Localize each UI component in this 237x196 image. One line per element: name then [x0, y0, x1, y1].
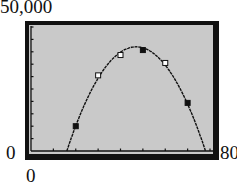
open-data-point [96, 73, 101, 78]
filled-data-point [140, 48, 145, 53]
filled-data-point [73, 124, 78, 129]
calculator-graph-screen [0, 0, 237, 196]
open-data-point [163, 60, 168, 65]
open-data-point [118, 53, 123, 58]
screen-background [29, 25, 213, 154]
filled-data-point [185, 100, 190, 105]
